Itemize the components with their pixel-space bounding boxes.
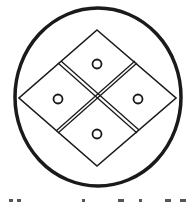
dot-left (54, 95, 63, 104)
crest-diagram (0, 0, 193, 202)
clipped-caption (9, 199, 186, 202)
dot-bottom (93, 130, 102, 139)
dot-right (134, 95, 143, 104)
divider-lines (56, 61, 139, 133)
dot-top (93, 60, 102, 69)
